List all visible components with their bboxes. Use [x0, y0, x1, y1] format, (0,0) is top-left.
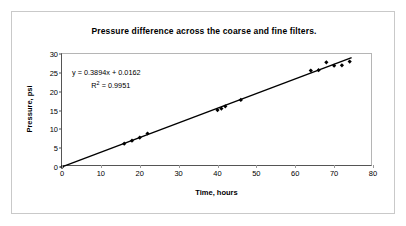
r-squared-value: R2 = 0.9951 — [72, 78, 141, 91]
data-point-marker — [316, 68, 320, 72]
x-tick-mark — [256, 165, 257, 168]
x-tick-label: 0 — [60, 169, 64, 178]
chart-title: Pressure difference across the coarse an… — [12, 26, 396, 36]
data-point-marker — [324, 60, 328, 64]
x-tick-label: 30 — [174, 169, 182, 178]
y-tick-label: 0 — [36, 163, 58, 172]
x-tick-mark — [295, 165, 296, 168]
x-tick-label: 60 — [291, 169, 299, 178]
x-tick-mark — [101, 165, 102, 168]
x-tick-label: 40 — [213, 169, 221, 178]
x-tick-label: 10 — [97, 169, 105, 178]
data-point-marker — [348, 59, 352, 63]
chart-frame: Pressure difference across the coarse an… — [11, 11, 395, 214]
y-tick-mark — [59, 129, 62, 130]
x-axis-label: Time, hours — [61, 188, 372, 197]
y-tick-label: 15 — [36, 106, 58, 115]
x-tick-mark — [62, 165, 63, 168]
y-tick-label: 5 — [36, 144, 58, 153]
y-tick-mark — [59, 110, 62, 111]
y-tick-mark — [59, 54, 62, 55]
y-tick-label: 10 — [36, 125, 58, 134]
x-tick-label: 50 — [252, 169, 260, 178]
x-tick-label: 70 — [330, 169, 338, 178]
data-point-marker — [340, 63, 344, 67]
x-tick-mark — [373, 165, 374, 168]
x-tick-mark — [179, 165, 180, 168]
y-tick-label: 25 — [36, 68, 58, 77]
y-tick-mark — [59, 148, 62, 149]
x-tick-mark — [334, 165, 335, 168]
regression-equation: y = 0.3894x + 0.0162 — [72, 67, 141, 78]
y-tick-mark — [59, 91, 62, 92]
x-tick-label: 80 — [369, 169, 377, 178]
x-tick-mark — [218, 165, 219, 168]
y-tick-label: 30 — [36, 50, 58, 59]
data-point-marker — [130, 139, 134, 143]
x-tick-mark — [140, 165, 141, 168]
r-squared-number: = 0.9951 — [100, 81, 131, 90]
y-axis-label: Pressure, psi — [25, 85, 34, 132]
y-tick-mark — [59, 72, 62, 73]
data-point-marker — [138, 136, 142, 140]
y-tick-label: 20 — [36, 87, 58, 96]
x-tick-label: 20 — [136, 169, 144, 178]
trendline-annotation: y = 0.3894x + 0.0162 R2 = 0.9951 — [72, 67, 141, 91]
